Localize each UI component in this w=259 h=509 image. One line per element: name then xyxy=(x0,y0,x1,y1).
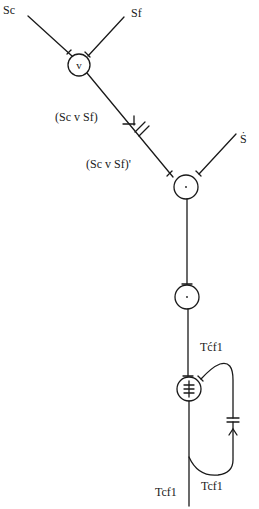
and-node-2-dot xyxy=(186,296,188,298)
edge-sc-to-or xyxy=(28,16,72,56)
label-sc-or-sf: (Sc v Sf) xyxy=(55,110,98,124)
edge-sf-to-or xyxy=(88,17,124,56)
negation-mark-1 xyxy=(135,122,145,132)
label-s-dot: Ṡ xyxy=(240,131,247,146)
edge-sdot-to-and xyxy=(199,134,236,174)
label-sc-or-sf-prime: (Sc v Sf)' xyxy=(86,157,131,171)
feedback-loop-upper xyxy=(201,363,233,418)
and-node-1-dot xyxy=(185,186,187,188)
or-node-symbol: v xyxy=(76,59,82,71)
label-tcf1-prime: Tćf1 xyxy=(200,340,223,354)
label-sc: Sc xyxy=(3,3,15,17)
signal-flow-diagram: Sc Sf v (Sc v Sf) (Sc v Sf)' Ṡ Tćf1 Tcf1 xyxy=(0,0,259,509)
label-sf: Sf xyxy=(131,6,142,20)
label-tcf1-loop: Tcf1 xyxy=(201,479,223,493)
negation-mark-2 xyxy=(139,126,149,136)
feedback-loop-lower xyxy=(189,422,233,475)
label-tcf1-out: Tcf1 xyxy=(155,485,177,499)
